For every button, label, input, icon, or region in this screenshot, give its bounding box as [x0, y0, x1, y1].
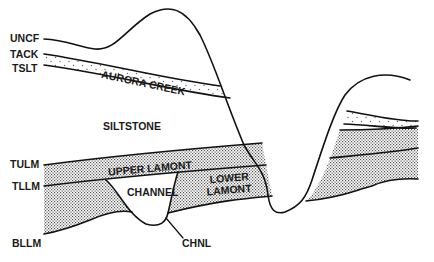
cross-section-diagram: UNCF TACK TSLT TULM TLLM BLLM CHNL AUROR…: [0, 0, 434, 262]
label-tllm: TLLM: [12, 180, 40, 192]
label-tulm: TULM: [10, 158, 39, 170]
label-channel: CHANNEL: [127, 186, 179, 198]
chnl-leader-line: [166, 218, 183, 238]
aurora-creek-unit-right: [344, 111, 418, 128]
lamont-unit-right: [306, 126, 418, 201]
label-bllm: BLLM: [12, 237, 41, 249]
label-tack: TACK: [10, 48, 39, 60]
label-tslt: TSLT: [12, 62, 38, 74]
label-chnl: CHNL: [182, 237, 212, 249]
label-siltstone: SILTSTONE: [103, 120, 161, 132]
label-uncf: UNCF: [10, 32, 40, 44]
